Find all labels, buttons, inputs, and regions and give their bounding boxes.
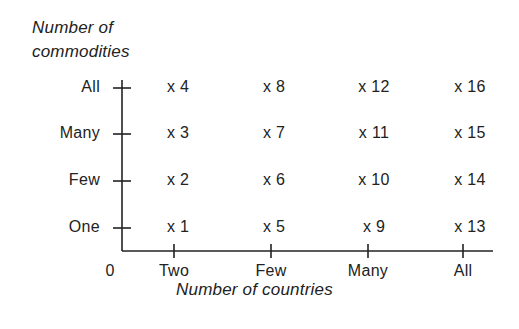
y-label-all: All xyxy=(20,78,100,96)
cell-two-few: x 2 xyxy=(148,171,208,189)
y-label-one: One xyxy=(20,218,100,236)
cell-all-few: x 14 xyxy=(440,171,500,189)
cell-few-many: x 7 xyxy=(244,124,304,142)
cell-few-few: x 6 xyxy=(244,171,304,189)
cell-many-many: x 11 xyxy=(344,124,404,142)
y-label-many: Many xyxy=(20,124,100,142)
cell-many-one: x 9 xyxy=(344,218,404,236)
x-label-many: Many xyxy=(328,262,408,280)
cell-two-one: x 1 xyxy=(148,218,208,236)
cell-many-few: x 10 xyxy=(344,171,404,189)
cell-all-one: x 13 xyxy=(440,218,500,236)
y-label-few: Few xyxy=(20,171,100,189)
cell-many-all: x 12 xyxy=(344,78,404,96)
x-label-two: Two xyxy=(134,262,214,280)
cell-all-all: x 16 xyxy=(440,78,500,96)
x-axis-title: Number of countries xyxy=(176,280,333,300)
x-label-few: Few xyxy=(231,262,311,280)
origin-label: 0 xyxy=(90,262,130,280)
cell-few-one: x 5 xyxy=(244,218,304,236)
cell-all-many: x 15 xyxy=(440,124,500,142)
cell-few-all: x 8 xyxy=(244,78,304,96)
x-label-all: All xyxy=(423,262,503,280)
cell-two-many: x 3 xyxy=(148,124,208,142)
cell-two-all: x 4 xyxy=(148,78,208,96)
